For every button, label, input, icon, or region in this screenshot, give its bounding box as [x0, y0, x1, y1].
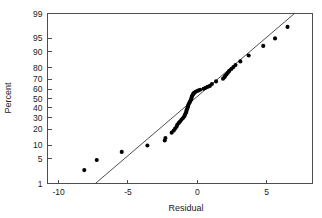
data-point [285, 25, 289, 29]
x-tick-label: 0 [195, 187, 200, 197]
x-axis-title: Residual [168, 203, 203, 213]
y-tick-label: 60 [33, 84, 43, 94]
y-tick-label: 1 [38, 179, 43, 189]
y-tick-label: 40 [33, 103, 43, 113]
data-point [210, 82, 214, 86]
data-point [82, 168, 86, 172]
x-axis-ticks [59, 180, 267, 184]
y-tick-label: 20 [33, 124, 43, 134]
y-tick-label: 95 [33, 33, 43, 43]
y-tick-label: 5 [38, 154, 43, 164]
data-point [233, 63, 237, 67]
data-point [95, 158, 99, 162]
data-point [247, 54, 251, 58]
normal-fit-line [95, 14, 294, 184]
data-point [261, 44, 265, 48]
y-tick-label: 90 [33, 47, 43, 57]
y-tick-label: 80 [33, 63, 43, 73]
y-tick-label: 50 [33, 94, 43, 104]
data-point [214, 79, 218, 83]
normal-probability-plot: -10-505 151020304050607080909599 Residua… [0, 0, 322, 218]
y-axis-title: Percent [3, 82, 13, 114]
data-point [238, 59, 242, 63]
y-axis-tick-labels: 151020304050607080909599 [33, 9, 43, 189]
chart-canvas: -10-505 151020304050607080909599 Residua… [0, 0, 322, 218]
y-tick-label: 99 [33, 9, 43, 19]
data-point [120, 150, 124, 154]
x-tick-label: 5 [264, 187, 269, 197]
plot-border [48, 14, 313, 184]
x-tick-label: -10 [52, 187, 65, 197]
plot-frame [48, 14, 313, 184]
data-point [198, 88, 202, 92]
data-point [273, 36, 277, 40]
x-axis-tick-labels: -10-505 [52, 187, 269, 197]
reference-line [95, 14, 294, 184]
data-point [145, 143, 149, 147]
data-point [163, 136, 167, 140]
x-tick-label: -5 [124, 187, 132, 197]
y-tick-label: 30 [33, 113, 43, 123]
y-tick-label: 10 [33, 140, 43, 150]
y-tick-label: 70 [33, 74, 43, 84]
data-points [82, 25, 289, 172]
y-axis-ticks [48, 14, 52, 184]
